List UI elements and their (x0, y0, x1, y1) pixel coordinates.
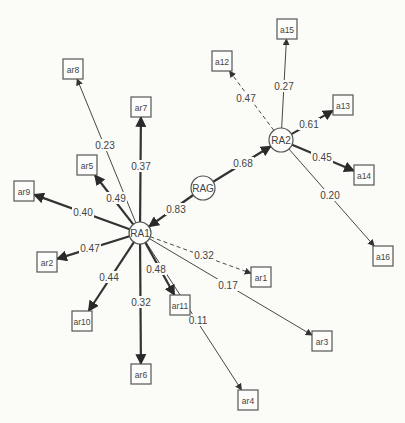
edge-weight-label: 0.61 (299, 119, 319, 130)
latent-node-label: RA1 (130, 228, 150, 239)
edge-weight-label: 0.45 (312, 152, 332, 163)
edge-weight-label: 0.44 (99, 272, 119, 283)
edge-weight-label: 0.47 (80, 243, 100, 254)
observed-node-label: a16 (376, 252, 390, 262)
observed-node-label: ar2 (41, 258, 54, 268)
edge-weight-label: 0.68 (233, 158, 253, 169)
edge-labels-layer: 0.830.680.320.470.170.110.490.320.370.23… (72, 80, 341, 326)
observed-node-a12: a12 (212, 51, 232, 71)
edge-weight-label: 0.23 (95, 140, 115, 151)
observed-node-label: ar7 (135, 103, 148, 113)
edge-weight-label: 0.83 (166, 204, 186, 215)
observed-node-a14: a14 (354, 165, 374, 185)
observed-node-label: ar10 (73, 317, 90, 327)
edge-weight-label: 0.20 (320, 190, 340, 201)
observed-node-ar3: ar3 (312, 331, 332, 351)
latent-node-label: RAG (192, 183, 214, 194)
observed-node-label: a12 (215, 57, 229, 67)
observed-node-label: ar4 (242, 396, 255, 406)
edge-weight-label: 0.37 (131, 161, 151, 172)
observed-node-ar2: ar2 (37, 252, 57, 272)
observed-node-label: ar3 (316, 337, 329, 347)
observed-node-ar8: ar8 (63, 59, 83, 79)
observed-node-label: a13 (336, 101, 350, 111)
observed-node-label: ar6 (135, 370, 148, 380)
observed-node-a15: a15 (277, 19, 297, 39)
latent-node-ra2: RA2 (269, 128, 293, 152)
observed-node-ar1: ar1 (251, 267, 271, 287)
edge-weight-label: 0.49 (106, 193, 126, 204)
edge-weight-label: 0.47 (236, 93, 256, 104)
observed-node-ar5: ar5 (77, 155, 97, 175)
edge-weight-label: 0.48 (146, 264, 166, 275)
nodes-layer: RAGRA1RA2ar1ar2ar3ar4ar5ar6ar7ar8ar9ar10… (14, 19, 393, 410)
observed-node-label: a14 (357, 171, 371, 181)
observed-node-label: ar11 (172, 301, 189, 311)
latent-node-label: RA2 (271, 135, 291, 146)
path-diagram: 0.830.680.320.470.170.110.490.320.370.23… (0, 0, 405, 423)
observed-node-label: a15 (280, 25, 294, 35)
observed-node-label: ar1 (255, 273, 268, 283)
observed-node-ar6: ar6 (131, 364, 151, 384)
edge-weight-label: 0.17 (218, 280, 238, 291)
edge-weight-label: 0.32 (131, 297, 151, 308)
observed-node-ar7: ar7 (131, 97, 151, 117)
observed-node-label: ar8 (67, 65, 80, 75)
observed-node-label: ar5 (81, 161, 94, 171)
observed-node-label: ar9 (18, 187, 31, 197)
edge-weight-label: 0.32 (194, 250, 214, 261)
latent-node-rag: RAG (191, 176, 215, 200)
observed-node-ar10: ar10 (72, 311, 92, 331)
observed-node-a16: a16 (373, 246, 393, 266)
observed-node-a13: a13 (333, 95, 353, 115)
latent-node-ra1: RA1 (129, 222, 151, 244)
observed-node-ar11: ar11 (170, 295, 190, 315)
edge-weight-label: 0.11 (189, 315, 208, 326)
observed-node-ar9: ar9 (14, 181, 34, 201)
edge-weight-label: 0.40 (73, 207, 93, 218)
observed-node-ar4: ar4 (238, 390, 258, 410)
edge-weight-label: 0.27 (274, 81, 294, 92)
